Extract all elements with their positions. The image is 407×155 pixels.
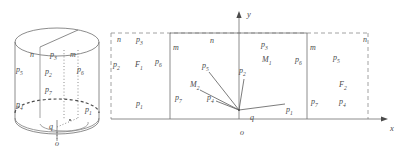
label-pl-p5-right: p5 [333, 54, 340, 64]
label-cyl-p4: p4 [16, 101, 23, 111]
label-cyl-p2: p2 [45, 68, 52, 78]
figure-vector-layer [0, 0, 407, 155]
label-pl-p2-left: p2 [113, 61, 120, 71]
label-pl-p3-left: p3 [136, 36, 143, 46]
label-pl-F1: F1 [135, 61, 143, 71]
label-pl-p1-mid: p1 [286, 106, 293, 116]
label-pl-o: o [240, 129, 244, 137]
label-cyl-n: n [30, 51, 34, 59]
vector-origin-point-q [238, 109, 240, 111]
vector-p1 [239, 104, 285, 110]
cylinder-top-ellipse [15, 28, 99, 56]
force-vector-bundle [200, 72, 285, 111]
cylinder-q-point [69, 119, 71, 121]
label-pl-p7-left: p7 [175, 94, 182, 104]
label-pl-p1-left: p1 [136, 100, 143, 110]
label-cyl-p6: p6 [77, 66, 84, 76]
label-cyl-m: m [70, 51, 76, 59]
coordinate-axes [111, 11, 388, 122]
figure-canvas: np3mp5p2p6p7p4p1qo np3mnp3mnp2F1p6M1p6p5… [0, 0, 407, 155]
label-pl-y: y [247, 10, 251, 19]
label-cyl-q: q [49, 123, 53, 131]
label-pl-p4-right: p4 [339, 98, 346, 108]
label-pl-p7-right: p7 [311, 98, 318, 108]
label-pl-M1: M1 [262, 56, 271, 66]
label-cyl-p3: p3 [50, 51, 57, 61]
cylinder-q-radius-dotted [57, 118, 78, 127]
cylinder-shape [15, 28, 99, 141]
vector-M2 [200, 90, 239, 110]
label-pl-n-mid: n [210, 37, 214, 45]
label-pl-p6-right: p6 [295, 56, 302, 66]
label-pl-m-left: m [173, 44, 179, 52]
cylinder-top-chord [40, 30, 78, 47]
label-pl-m-right: m [310, 44, 316, 52]
vector-p2 [239, 79, 244, 110]
label-cyl-p1: p1 [85, 106, 92, 116]
label-cyl-p7: p7 [45, 86, 52, 96]
label-pl-p3-mid: p3 [261, 41, 268, 51]
label-cyl-p5: p5 [16, 66, 23, 76]
label-cyl-o: o [55, 140, 59, 148]
label-pl-n-far: n [363, 36, 367, 44]
label-pl-n-left: n [117, 36, 121, 44]
label-pl-M2: M2 [190, 81, 199, 91]
label-pl-F2: F2 [339, 81, 347, 91]
label-pl-p6-left: p6 [155, 58, 162, 68]
label-pl-q: q [250, 114, 254, 122]
label-pl-p5-vec: p5 [202, 62, 209, 72]
x-axis-arrowhead [381, 116, 388, 121]
y-axis-arrowhead [236, 11, 241, 18]
label-pl-p4-vec: p4 [207, 94, 214, 104]
label-pl-x: x [390, 124, 394, 133]
label-pl-p2-vec: p2 [239, 67, 246, 77]
